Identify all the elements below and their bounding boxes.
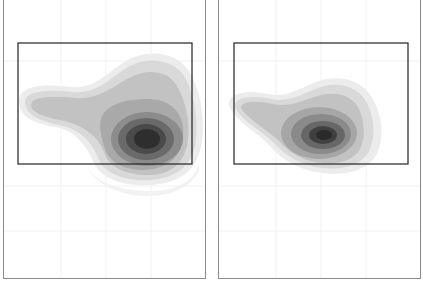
density-panel-right xyxy=(218,0,421,279)
density-panel-left xyxy=(3,0,206,279)
density-contours-left xyxy=(19,54,203,196)
density-plot-right xyxy=(219,0,421,279)
density-contours-right xyxy=(229,78,382,174)
density-plot-left xyxy=(4,0,206,279)
